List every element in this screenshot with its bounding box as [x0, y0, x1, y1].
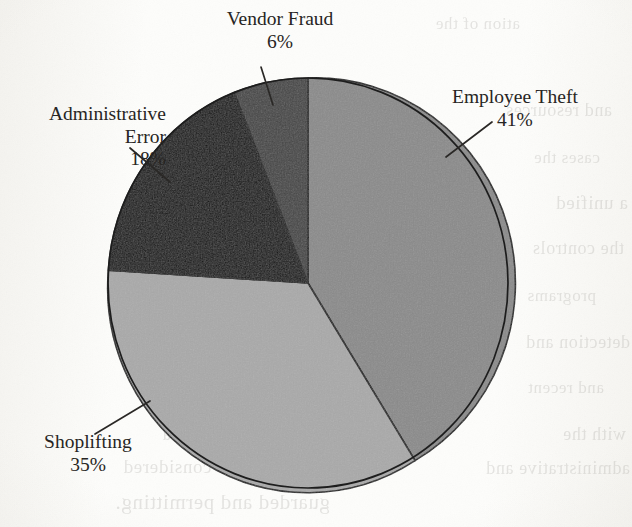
- leader-line-shoplifting: [95, 401, 150, 434]
- pie-label-administrative-error-name-line-2: Error: [16, 126, 166, 149]
- pie-label-employee-theft-name: Employee Theft: [452, 86, 578, 109]
- pie-label-employee-theft-value: 41%: [452, 109, 578, 132]
- pie-label-vendor-fraud-name: Vendor Fraud: [198, 8, 362, 31]
- pie-label-administrative-error-name-line-1: Administrative: [16, 103, 166, 126]
- pie-label-administrative-error-value: 18%: [16, 148, 166, 171]
- scanned-page: ation of the and resources cases the a u…: [0, 0, 632, 527]
- pie-label-shoplifting: Shoplifting 35%: [22, 431, 154, 476]
- pie-label-administrative-error: Administrative Error 18%: [16, 103, 166, 171]
- pie-label-vendor-fraud-value: 6%: [198, 31, 362, 54]
- pie-chart: Vendor Fraud 6% Employee Theft 41% Admin…: [0, 0, 632, 527]
- pie-label-shoplifting-name: Shoplifting: [22, 431, 154, 454]
- pie-label-vendor-fraud: Vendor Fraud 6%: [198, 8, 362, 53]
- pie-label-shoplifting-value: 35%: [22, 454, 154, 477]
- pie-label-employee-theft: Employee Theft 41%: [452, 86, 578, 131]
